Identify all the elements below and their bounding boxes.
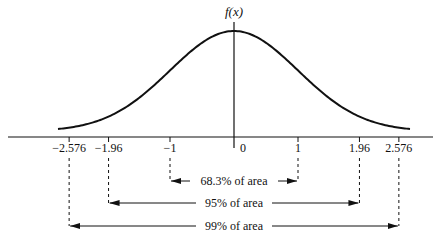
tick-label: 1.96 — [349, 141, 370, 155]
tick-label: 0 — [240, 141, 246, 155]
tick-label: 2.576 — [385, 141, 412, 155]
tick-label: −1 — [164, 141, 177, 155]
tick-label: 1 — [295, 141, 301, 155]
tick-label: −2.576 — [52, 141, 86, 155]
normal-distribution-diagram: f(x) −2.576−1.96−1011.962.576 68.3% of a… — [0, 0, 441, 242]
y-axis-label: f(x) — [225, 4, 243, 19]
interval-label: 68.3% of area — [201, 174, 269, 188]
interval-label: 99% of area — [205, 219, 264, 233]
tick-label: −1.96 — [95, 141, 123, 155]
interval-label: 95% of area — [205, 196, 264, 210]
